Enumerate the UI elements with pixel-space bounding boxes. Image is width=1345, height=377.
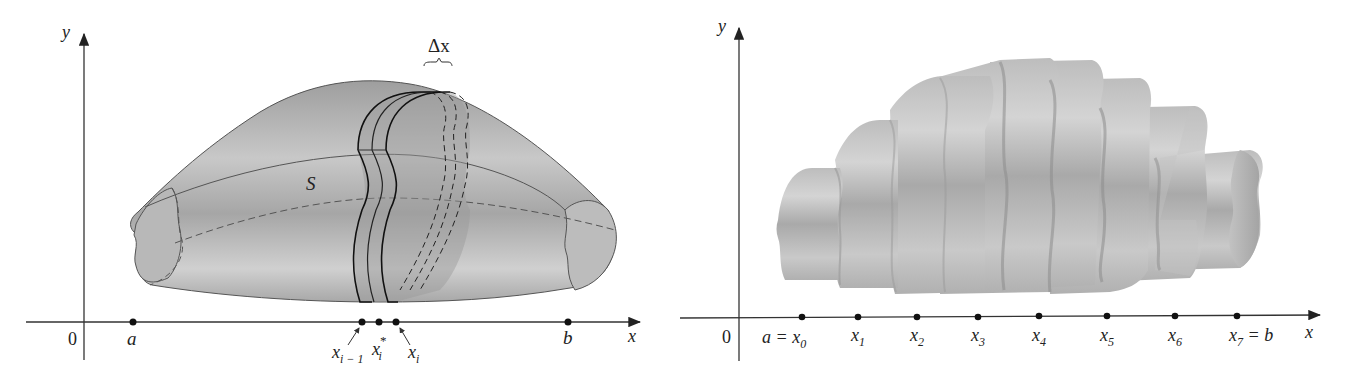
point-x0 — [799, 314, 806, 321]
right-figure: y x 0 a = x0 x1 x2 x3 x4 x5 x6 x7 = b — [680, 16, 1320, 361]
label-x4: x4 — [1031, 325, 1046, 349]
label-x0: a = x0 — [762, 327, 806, 351]
label-x-i-star: x*i — [371, 333, 387, 363]
label-x5: x5 — [1099, 325, 1114, 349]
right-end-cap — [565, 201, 617, 290]
point-x-i-minus-1 — [359, 319, 366, 326]
point-x6 — [1172, 313, 1179, 320]
slab — [353, 92, 470, 302]
label-x2: x2 — [909, 325, 924, 349]
right-x-axis — [680, 315, 1320, 318]
right-y-label: y — [716, 16, 726, 36]
left-origin-label: 0 — [68, 329, 77, 349]
cylinder-1 — [835, 120, 898, 288]
point-x5 — [1104, 313, 1111, 320]
point-b — [565, 319, 572, 326]
cylinder-2 — [887, 76, 994, 294]
surface-label: S — [306, 173, 316, 194]
point-x4 — [1036, 313, 1043, 320]
label-x7: x7 = b — [1228, 325, 1273, 349]
delta-x-label: Δx — [428, 35, 450, 56]
cylinder-0 — [777, 168, 843, 280]
left-x-label: x — [627, 326, 636, 346]
label-x1: x1 — [850, 325, 865, 349]
point-x-i-star — [376, 319, 383, 326]
point-x-i — [393, 319, 400, 326]
delta-brace — [424, 58, 452, 66]
label-x-i-minus-1: xi − 1 — [331, 342, 363, 366]
label-x-i: xi — [407, 342, 419, 366]
right-origin-label: 0 — [722, 327, 731, 347]
point-x1 — [855, 314, 862, 321]
left-figure: Δx S y x 0 a b xi − 1 x*i xi — [26, 22, 640, 366]
label-b: b — [563, 327, 573, 348]
point-x7 — [1234, 313, 1241, 320]
label-x6: x6 — [1167, 325, 1182, 349]
point-x2 — [914, 314, 921, 321]
label-x3: x3 — [970, 325, 985, 349]
right-x-label: x — [1304, 322, 1313, 342]
left-y-label: y — [60, 22, 70, 42]
figure-canvas: Δx S y x 0 a b xi − 1 x*i xi — [0, 0, 1345, 377]
point-x3 — [975, 314, 982, 321]
point-a — [130, 319, 137, 326]
label-a: a — [127, 328, 137, 349]
cylinder-stack — [777, 58, 1263, 294]
